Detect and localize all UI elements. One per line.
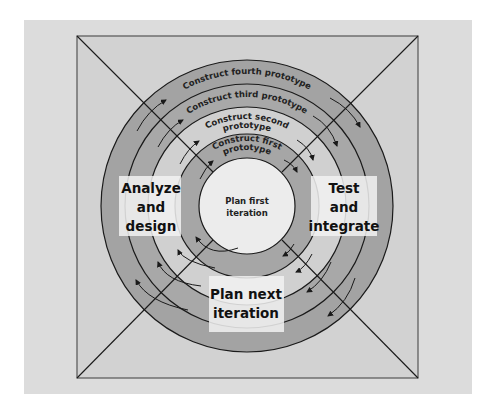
inner-circle (199, 158, 295, 254)
plan-next-label-line1: Plan next (210, 286, 282, 302)
spiral-diagram: Construct fourth prototype Construct thi… (0, 0, 495, 409)
test-label-line3: integrate (309, 218, 380, 234)
plan-next-box (209, 276, 284, 332)
test-label-line2: and (330, 199, 358, 215)
center-label-line2: iteration (226, 208, 268, 218)
test-label-line1: Test (328, 180, 360, 196)
analyze-label-line1: Analyze (121, 180, 181, 196)
plan-next-label-line2: iteration (213, 305, 279, 321)
center-label-line1: Plan first (225, 196, 269, 206)
analyze-label-line2: and (137, 199, 165, 215)
analyze-label-line3: design (126, 218, 177, 234)
